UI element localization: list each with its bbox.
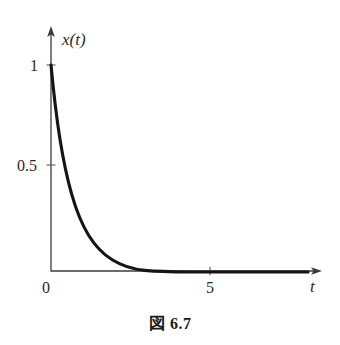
decay-curve-path [51,65,308,272]
y-tick-label-1: 1 [30,57,38,74]
caption-number-label: 6.7 [170,315,192,332]
x-axis-label: t [310,277,316,296]
figure-caption: 図6.7 [0,310,340,334]
x-tick-label-0: 0 [42,279,50,296]
y-tick-label-0point5: 0.5 [17,157,37,174]
figure-container: x(t) t 1 0.5 0 5 図6.7 [0,0,340,345]
x-tick-label-5: 5 [206,279,214,296]
caption-prefix-label: 図 [149,315,166,332]
y-axis-label: x(t) [61,30,86,49]
exponential-decay-plot: x(t) t 1 0.5 0 5 [0,0,340,305]
